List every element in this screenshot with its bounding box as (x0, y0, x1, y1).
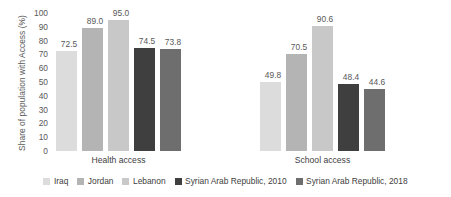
bar[interactable] (338, 84, 359, 151)
bar-slot: 48.4 (338, 13, 364, 151)
category-label: School access (253, 155, 393, 165)
bar-value-label: 48.4 (343, 72, 359, 82)
bar-chart: Share of population with Access (%) 1009… (0, 0, 451, 197)
y-axis-tick-label: 30 (26, 105, 48, 114)
y-axis-tick-label: 60 (26, 64, 48, 73)
y-axis-tick-label: 90 (26, 22, 48, 31)
legend-swatch-icon (122, 178, 129, 185)
category-label: Health access (49, 155, 189, 165)
y-axis-tick-label: 20 (26, 119, 48, 128)
bar-value-label: 74.5 (139, 36, 155, 46)
bar-slot: 89.0 (82, 13, 108, 151)
bar[interactable] (286, 54, 307, 151)
y-axis-ticks: 1009080706050403020100 (26, 8, 48, 156)
legend-item[interactable]: Syrian Arab Republic, 2018 (296, 176, 408, 186)
y-axis-tick-label: 0 (26, 147, 48, 156)
bar[interactable] (56, 51, 77, 151)
legend-swatch-icon (43, 178, 50, 185)
bar-value-label: 89.0 (87, 16, 103, 26)
y-axis-tick-label: 100 (26, 9, 48, 18)
bar[interactable] (160, 49, 181, 151)
legend-swatch-icon (77, 178, 84, 185)
bar-slot: 74.5 (134, 13, 160, 151)
bar[interactable] (260, 82, 281, 151)
bar-slot: 90.6 (312, 13, 338, 151)
chart-legend: IraqJordanLebanonSyrian Arab Republic, 2… (0, 176, 451, 186)
bar-slot: 44.6 (364, 13, 390, 151)
legend-item[interactable]: Lebanon (122, 176, 165, 186)
legend-item[interactable]: Jordan (77, 176, 113, 186)
legend-label: Syrian Arab Republic, 2018 (306, 176, 408, 186)
bar-slot: 95.0 (108, 13, 134, 151)
y-axis-tick-label: 80 (26, 36, 48, 45)
bar[interactable] (108, 20, 129, 151)
bar-value-label: 95.0 (113, 8, 129, 18)
legend-label: Iraq (54, 176, 68, 186)
y-axis-tick-label: 40 (26, 91, 48, 100)
bar[interactable] (82, 28, 103, 151)
bar-value-label: 70.5 (291, 42, 307, 52)
bar-value-label: 72.5 (61, 39, 77, 49)
bar-value-label: 44.6 (369, 77, 385, 87)
legend-label: Lebanon (133, 176, 166, 186)
bar-slot: 49.8 (260, 13, 286, 151)
legend-swatch-icon (175, 178, 182, 185)
bar-slot: 70.5 (286, 13, 312, 151)
legend-label: Jordan (88, 176, 114, 186)
y-axis-tick-label: 10 (26, 133, 48, 142)
legend-item[interactable]: Syrian Arab Republic, 2010 (175, 176, 287, 186)
bar-slot: 73.8 (160, 13, 186, 151)
bar[interactable] (364, 89, 385, 151)
category-labels: Health accessSchool access (52, 155, 446, 171)
bar[interactable] (134, 48, 155, 151)
bar-value-label: 73.8 (165, 37, 181, 47)
plot-area: 72.589.095.074.573.849.870.590.648.444.6 (52, 13, 446, 151)
legend-item[interactable]: Iraq (43, 176, 68, 186)
y-axis-tick-label: 50 (26, 78, 48, 87)
bar[interactable] (312, 26, 333, 151)
bar-value-label: 49.8 (265, 70, 281, 80)
bar-value-label: 90.6 (317, 14, 333, 24)
legend-swatch-icon (296, 178, 303, 185)
y-axis-tick-label: 70 (26, 50, 48, 59)
bar-slot: 72.5 (56, 13, 82, 151)
legend-label: Syrian Arab Republic, 2010 (185, 176, 287, 186)
